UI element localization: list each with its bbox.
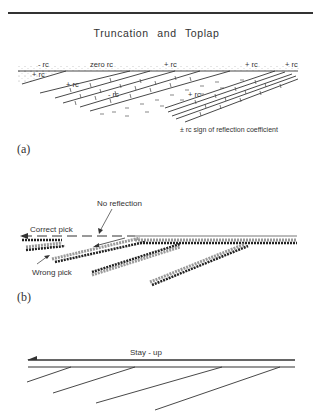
stay-up-label: Stay - up bbox=[130, 348, 162, 357]
